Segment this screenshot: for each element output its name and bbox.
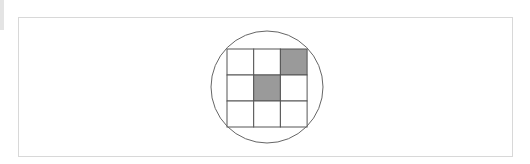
grid-circle-diagram	[0, 0, 530, 164]
shaded-grid-cell	[254, 75, 281, 101]
grid-cell	[280, 101, 307, 127]
grid-cell	[227, 49, 254, 75]
grid-cell	[227, 75, 254, 101]
grid-cell	[280, 75, 307, 101]
grid-cell	[254, 101, 281, 127]
shaded-grid-cell	[280, 49, 307, 75]
grid-cell	[227, 101, 254, 127]
grid-cell	[254, 49, 281, 75]
